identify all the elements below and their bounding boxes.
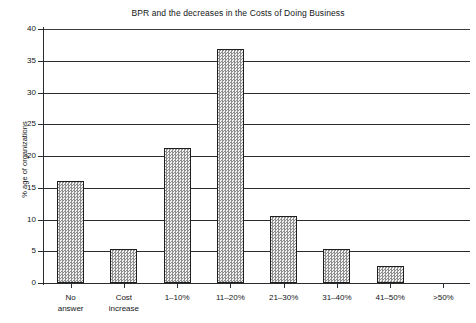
x-axis-tick	[337, 283, 338, 288]
y-axis-tick	[38, 93, 44, 94]
y-axis-tick-label: 10	[2, 216, 36, 224]
y-axis-tick-label: 35	[2, 57, 36, 65]
y-axis-tick-label: 40	[2, 25, 36, 33]
x-axis-line	[43, 283, 470, 284]
bar-chart-figure: BPR and the decreases in the Costs of Do…	[0, 0, 476, 323]
y-axis-tick	[38, 188, 44, 189]
y-axis-tick	[38, 29, 44, 30]
bar-1–10%	[164, 148, 191, 283]
bar-11–20%	[217, 49, 244, 283]
x-axis-tick	[443, 283, 444, 288]
x-axis-tick-label-line2: increase	[89, 303, 159, 314]
bar-41–50%	[377, 266, 404, 283]
x-axis-tick-label: >50%	[408, 292, 476, 303]
y-axis-tick	[38, 156, 44, 157]
bar-Cost increase	[110, 249, 137, 283]
y-axis-tick	[38, 61, 44, 62]
y-axis-tick-labels: 4035302520151050	[0, 0, 36, 323]
bar-21–30%	[270, 216, 297, 283]
y-axis-tick-label: 15	[2, 184, 36, 192]
y-axis-tick-label: 25	[2, 120, 36, 128]
x-axis-tick	[230, 283, 231, 288]
x-axis-tick	[390, 283, 391, 288]
y-axis-tick-label: 20	[2, 152, 36, 160]
y-axis-tick-label: 30	[2, 89, 36, 97]
bar-No answer	[57, 181, 84, 283]
y-axis-tick-label: 5	[2, 247, 36, 255]
chart-title: BPR and the decreases in the Costs of Do…	[0, 8, 476, 18]
x-axis-tick	[284, 283, 285, 288]
x-axis-tick	[124, 283, 125, 288]
y-axis-tick	[38, 283, 44, 284]
y-axis-tick	[38, 220, 44, 221]
bars-layer	[44, 29, 470, 283]
y-axis-tick	[38, 124, 44, 125]
x-axis-tick	[177, 283, 178, 288]
bar-31–40%	[323, 249, 350, 283]
y-axis-tick-label: 0	[2, 279, 36, 287]
y-axis-tick	[38, 251, 44, 252]
x-axis-tick	[71, 283, 72, 288]
